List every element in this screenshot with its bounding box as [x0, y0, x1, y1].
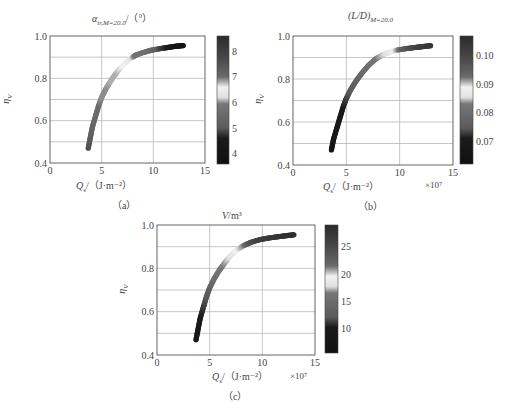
- svg-text:1.0: 1.0: [142, 220, 155, 231]
- panel-c-plot: 0510150.40.60.81.010152025: [0, 0, 508, 415]
- svg-text:5: 5: [207, 357, 212, 368]
- data-points: [193, 232, 296, 342]
- colorbar-tick-labels: 10152025: [341, 241, 351, 334]
- svg-text:0.8: 0.8: [142, 263, 155, 274]
- panel-c-ylabel: ηV: [116, 284, 130, 293]
- gridlines: [157, 225, 315, 355]
- svg-text:25: 25: [341, 241, 351, 252]
- panel-c-x-multiplier: ×10⁷: [290, 371, 307, 381]
- tick-labels: 0510150.40.60.81.0: [142, 220, 321, 369]
- colorbar: [325, 225, 338, 353]
- svg-text:0.4: 0.4: [142, 350, 155, 361]
- svg-text:15: 15: [341, 296, 351, 307]
- svg-text:15: 15: [310, 357, 320, 368]
- svg-text:10: 10: [257, 357, 267, 368]
- panel-c-xlabel: Qs/（J·m⁻²）: [212, 368, 268, 385]
- panel-c-caption: （c）: [223, 388, 247, 403]
- svg-text:0: 0: [155, 357, 160, 368]
- svg-text:10: 10: [341, 323, 351, 334]
- svg-text:20: 20: [341, 269, 351, 280]
- svg-text:0.6: 0.6: [142, 306, 155, 317]
